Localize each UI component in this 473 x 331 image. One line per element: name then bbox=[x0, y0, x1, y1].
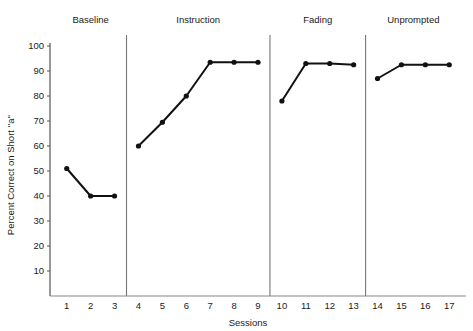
x-tick-label: 7 bbox=[208, 300, 213, 311]
y-tick-label: 60 bbox=[33, 140, 44, 151]
y-tick-label: 90 bbox=[33, 65, 44, 76]
x-tick-label: 11 bbox=[301, 300, 311, 311]
data-point-marker bbox=[327, 61, 332, 66]
x-tick-label: 17 bbox=[444, 300, 455, 311]
data-point-marker bbox=[447, 62, 452, 67]
phase-label-fading: Fading bbox=[303, 14, 332, 25]
y-tick-label: 30 bbox=[33, 215, 44, 226]
x-tick-label: 12 bbox=[324, 300, 335, 311]
phase-label-baseline: Baseline bbox=[72, 14, 108, 25]
y-axis-title: Percent Correct on Short ''a'' bbox=[5, 115, 16, 235]
phase-label-instruction: Instruction bbox=[176, 14, 220, 25]
y-tick-label: 80 bbox=[33, 90, 44, 101]
x-tick-label: 14 bbox=[372, 300, 383, 311]
data-point-marker bbox=[399, 62, 404, 67]
data-point-marker bbox=[160, 120, 165, 125]
data-point-marker bbox=[255, 60, 260, 65]
data-point-marker bbox=[88, 193, 93, 198]
data-point-marker bbox=[184, 93, 189, 98]
x-axis-title: Sessions bbox=[229, 317, 268, 328]
single-subject-line-chart: BaselineInstructionFadingUnprompted 1020… bbox=[0, 0, 473, 331]
chart-background bbox=[0, 0, 473, 331]
x-tick-label: 4 bbox=[136, 300, 141, 311]
x-tick-label: 6 bbox=[184, 300, 189, 311]
data-point-marker bbox=[112, 193, 117, 198]
x-tick-label: 13 bbox=[348, 300, 359, 311]
data-point-marker bbox=[136, 143, 141, 148]
x-tick-label: 8 bbox=[231, 300, 236, 311]
y-tick-label: 40 bbox=[33, 190, 44, 201]
y-tick-label: 70 bbox=[33, 115, 44, 126]
x-tick-label: 5 bbox=[160, 300, 165, 311]
x-tick-label: 10 bbox=[277, 300, 288, 311]
data-point-marker bbox=[231, 60, 236, 65]
data-point-marker bbox=[64, 166, 69, 171]
data-point-marker bbox=[351, 62, 356, 67]
x-tick-label: 1 bbox=[64, 300, 69, 311]
y-tick-label: 10 bbox=[33, 265, 44, 276]
y-tick-label: 20 bbox=[33, 240, 44, 251]
x-tick-label: 2 bbox=[88, 300, 93, 311]
x-tick-label: 9 bbox=[255, 300, 260, 311]
x-tick-label: 16 bbox=[420, 300, 431, 311]
data-point-marker bbox=[279, 98, 284, 103]
phase-label-unprompted: Unprompted bbox=[387, 14, 439, 25]
x-tick-label: 15 bbox=[396, 300, 407, 311]
chart-container: BaselineInstructionFadingUnprompted 1020… bbox=[0, 0, 473, 331]
data-point-marker bbox=[208, 60, 213, 65]
data-point-marker bbox=[423, 62, 428, 67]
data-point-marker bbox=[303, 61, 308, 66]
y-tick-label: 100 bbox=[28, 40, 44, 51]
y-tick-label: 50 bbox=[33, 165, 44, 176]
x-tick-label: 3 bbox=[112, 300, 117, 311]
data-point-marker bbox=[375, 76, 380, 81]
